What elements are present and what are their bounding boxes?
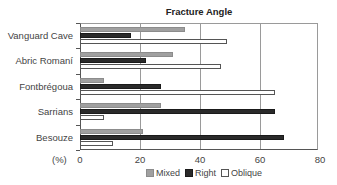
bar-mixed	[80, 78, 104, 83]
category-label: Abric Romaní	[15, 55, 73, 66]
bar-mixed	[80, 27, 185, 32]
legend-label-right: Right	[195, 168, 216, 178]
x-tick-0: 0	[77, 154, 82, 165]
chart-title: Fracture Angle	[80, 6, 318, 17]
x-tick-60: 60	[255, 154, 266, 165]
bar-oblique	[80, 115, 104, 120]
bar-oblique	[80, 90, 275, 95]
bar-oblique	[80, 39, 227, 44]
y-tick	[76, 150, 80, 151]
bar-right	[80, 135, 284, 140]
legend-label-mixed: Mixed	[156, 168, 180, 178]
bar-right	[80, 84, 161, 89]
legend-label-oblique: Oblique	[231, 168, 262, 178]
x-tick-20: 20	[135, 154, 146, 165]
bar-mixed	[80, 129, 143, 134]
bar-right	[80, 33, 131, 38]
bar-right	[80, 58, 146, 63]
legend: Mixed Right Oblique	[146, 168, 267, 178]
category-label: Besouze	[36, 132, 73, 143]
y-tick	[76, 99, 80, 100]
bar-mixed	[80, 52, 173, 57]
bar-right	[80, 109, 275, 114]
x-tick-40: 40	[195, 154, 206, 165]
category-label: Sarrians	[38, 106, 73, 117]
legend-item-oblique: Oblique	[221, 168, 262, 178]
category-label: Vanguard Cave	[8, 30, 73, 41]
legend-swatch-mixed	[146, 169, 154, 177]
legend-swatch-oblique	[221, 169, 229, 177]
y-tick	[76, 23, 80, 24]
legend-swatch-right	[185, 169, 193, 177]
bar-oblique	[80, 141, 113, 146]
y-tick	[76, 74, 80, 75]
y-tick	[76, 125, 80, 126]
legend-item-mixed: Mixed	[146, 168, 180, 178]
x-tick-80: 80	[315, 154, 326, 165]
legend-item-right: Right	[185, 168, 216, 178]
y-tick	[76, 48, 80, 49]
gridline-60	[260, 24, 261, 149]
category-label: Fontbrégoua	[19, 81, 73, 92]
bar-mixed	[80, 103, 161, 108]
x-axis-unit-label: (%)	[52, 154, 67, 165]
bar-oblique	[80, 64, 221, 69]
